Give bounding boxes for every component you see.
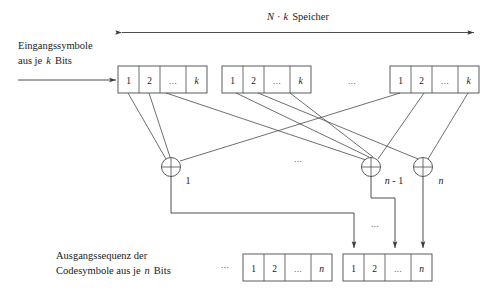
input-symbols-label: Eingangssymbole aus jekBits (18, 40, 93, 66)
register-2-cell-2: 2 (251, 76, 256, 86)
label-middot: · (277, 11, 281, 22)
output-routing-lines (171, 177, 423, 249)
svg-text:N·kSpeicher: N·kSpeicher (266, 11, 329, 22)
output-label-line2-suffix: Bits (154, 265, 171, 276)
adder-n-label: n (439, 175, 444, 186)
output-routing-ellipsis: ... (371, 219, 379, 229)
register-row-ellipsis: ... (348, 76, 356, 86)
register-1-cell-ellipsis: ... (169, 76, 177, 86)
modulo-adder-n-minus-1: n- 1 (362, 158, 404, 187)
register-1-cell-1: 1 (126, 76, 131, 86)
output-1-cell-1: 1 (251, 264, 256, 274)
modulo-adder-n: n (414, 158, 444, 187)
output-block-2: 1 2 ... n (343, 254, 432, 281)
register-block-3: 1 2 ... k (390, 66, 479, 93)
tap-connection-lines (128, 93, 468, 161)
output-1-cell-2: 2 (272, 264, 277, 274)
register-block-2: 1 2 ... k (222, 66, 311, 93)
adder-1-label: 1 (186, 175, 191, 186)
register-3-cell-ellipsis: ... (441, 76, 449, 86)
adder-n-minus-1-label: n- 1 (385, 175, 403, 186)
output-2-cell-2: 2 (372, 264, 377, 274)
register-3-cell-1: 1 (398, 76, 403, 86)
output-2-cell-1: 1 (351, 264, 356, 274)
input-label-line2-suffix: Bits (55, 55, 72, 66)
output-label-line2-italic: n (145, 265, 150, 276)
input-label-line2-italic: k (46, 55, 51, 66)
register-3-cell-2: 2 (419, 76, 424, 86)
output-sequence-label: Ausgangssequenz der Codesymbole aus jenB… (56, 250, 171, 276)
register-2-cell-1: 1 (230, 76, 235, 86)
output-label-line2-prefix: Codesymbole aus je (56, 265, 141, 276)
output-row-ellipsis: ... (221, 260, 229, 270)
output-1-cell-ellipsis: ... (294, 264, 302, 274)
convolutional-encoder-diagram: N·kSpeicher Eingangssymbole aus jekBits … (0, 0, 502, 294)
label-k: k (284, 11, 289, 22)
label-N: N (266, 11, 275, 22)
register-block-1: 1 2 ... k (118, 66, 207, 93)
svg-text:aus jekBits: aus jekBits (18, 55, 72, 66)
output-block-1: 1 2 ... n (243, 254, 332, 281)
output-2-cell-ellipsis: ... (394, 264, 402, 274)
output-1-cell-n: n (319, 264, 324, 274)
register-2-cell-ellipsis: ... (273, 76, 281, 86)
register-1-cell-2: 2 (147, 76, 152, 86)
modulo-adder-1: 1 (162, 158, 191, 187)
memory-span-label: N·kSpeicher (266, 11, 329, 22)
label-speicher: Speicher (292, 11, 329, 22)
adder-row-ellipsis: ... (294, 154, 302, 164)
output-label-line1: Ausgangssequenz der (56, 250, 148, 261)
input-label-line2-prefix: aus je (18, 55, 43, 66)
output-2-cell-n: n (419, 264, 424, 274)
svg-text:Codesymbole aus jenBits: Codesymbole aus jenBits (56, 265, 171, 276)
input-label-line1: Eingangssymbole (18, 40, 93, 51)
